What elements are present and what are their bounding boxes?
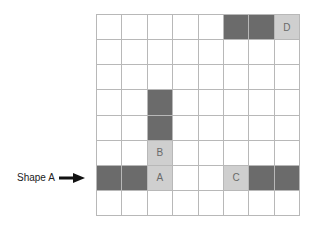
cell-b: B	[148, 141, 173, 166]
grid-cell	[199, 191, 224, 216]
grid-cell	[97, 15, 122, 40]
grid-cell	[173, 191, 198, 216]
grid-cell	[173, 15, 198, 40]
cell-c: C	[224, 166, 249, 191]
grid-cell	[199, 116, 224, 141]
cell-filled	[122, 166, 147, 191]
grid-cell	[249, 40, 274, 65]
cell-filled	[148, 116, 173, 141]
grid-cell	[224, 116, 249, 141]
cell-filled	[148, 90, 173, 115]
grid-cell	[173, 116, 198, 141]
grid-cell	[275, 116, 300, 141]
grid-cell	[122, 15, 147, 40]
grid-cell	[148, 15, 173, 40]
grid-cell	[249, 116, 274, 141]
grid-cell	[97, 191, 122, 216]
grid-cell	[199, 166, 224, 191]
cell-d: D	[275, 15, 300, 40]
grid-cell	[275, 65, 300, 90]
grid-cell	[122, 141, 147, 166]
cell-filled	[275, 166, 300, 191]
grid-cell	[275, 141, 300, 166]
grid-cell	[97, 65, 122, 90]
grid-cell	[249, 141, 274, 166]
grid-cell	[122, 65, 147, 90]
grid-cell	[275, 40, 300, 65]
grid-cell	[173, 90, 198, 115]
grid-cell	[122, 191, 147, 216]
grid-board: DBAC	[96, 14, 300, 216]
grid-cell	[97, 90, 122, 115]
grid-cell	[199, 90, 224, 115]
grid-cell	[249, 191, 274, 216]
cell-filled	[224, 15, 249, 40]
grid-cell	[275, 90, 300, 115]
right-arrow-icon	[59, 173, 85, 183]
grid-cell	[199, 141, 224, 166]
cell-filled	[97, 166, 122, 191]
grid-cell	[199, 15, 224, 40]
cell-a: A	[148, 166, 173, 191]
grid-cell	[173, 141, 198, 166]
shape-a-label: Shape A	[17, 172, 55, 183]
grid-cell	[224, 90, 249, 115]
grid-cell	[97, 40, 122, 65]
grid-cell	[122, 90, 147, 115]
grid-cell	[199, 65, 224, 90]
grid-cell	[275, 191, 300, 216]
shape-a-pointer: Shape A	[17, 172, 85, 183]
cell-filled	[249, 15, 274, 40]
cell-filled	[249, 166, 274, 191]
grid-cell	[199, 40, 224, 65]
grid-cell	[97, 141, 122, 166]
grid-cell	[224, 141, 249, 166]
grid-cell	[148, 65, 173, 90]
grid-cell	[224, 65, 249, 90]
grid-cell	[173, 166, 198, 191]
grid-cell	[148, 40, 173, 65]
grid-cell	[173, 40, 198, 65]
grid-cell	[249, 90, 274, 115]
grid-cell	[173, 65, 198, 90]
grid-cell	[122, 40, 147, 65]
grid-cell	[97, 116, 122, 141]
grid-cell	[148, 191, 173, 216]
grid-cell	[224, 40, 249, 65]
grid-cell	[249, 65, 274, 90]
grid-cell	[122, 116, 147, 141]
grid-cell	[224, 191, 249, 216]
